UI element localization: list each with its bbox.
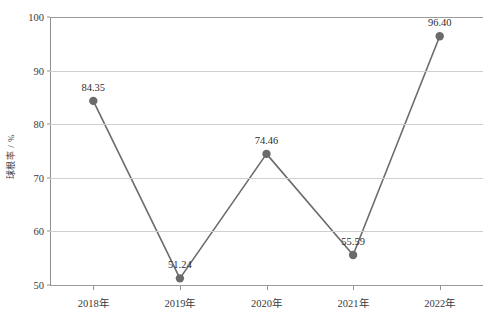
x-tick-label: 2022年: [424, 295, 455, 310]
data-point-marker[interactable]: [262, 150, 270, 158]
y-tick-label: 70: [34, 172, 45, 183]
x-tick-mark: [93, 286, 94, 290]
x-tick-label: 2020年: [251, 295, 282, 310]
gridline: [50, 178, 483, 179]
gridline: [50, 124, 483, 125]
y-tick-label: 100: [28, 12, 44, 23]
gridline: [50, 231, 483, 232]
y-tick-label: 90: [34, 65, 45, 76]
x-tick-mark: [267, 286, 268, 290]
y-tick-label: 60: [34, 226, 45, 237]
y-axis-tick-labels: 5060708090100: [0, 0, 50, 312]
chart-figure: 球根率 / % 5060708090100 2018年2019年2020年202…: [0, 0, 494, 312]
y-tick-label: 80: [34, 119, 45, 130]
data-point-marker[interactable]: [349, 251, 357, 259]
x-tick-mark: [440, 286, 441, 290]
x-tick-label: 2018年: [78, 295, 109, 310]
x-tick-label: 2019年: [164, 295, 195, 310]
x-tick-mark: [180, 286, 181, 290]
data-point-marker[interactable]: [436, 32, 444, 40]
plot-area: [50, 17, 483, 285]
data-point-marker[interactable]: [89, 97, 97, 105]
y-tick-label: 50: [34, 280, 45, 291]
x-tick-mark: [353, 286, 354, 290]
gridline: [50, 71, 483, 72]
series-line-chart: [50, 17, 483, 285]
x-axis-tick-labels: 2018年2019年2020年2021年2022年: [50, 286, 483, 312]
x-tick-label: 2021年: [338, 295, 369, 310]
data-point-marker[interactable]: [176, 274, 184, 282]
gridline: [50, 17, 483, 18]
